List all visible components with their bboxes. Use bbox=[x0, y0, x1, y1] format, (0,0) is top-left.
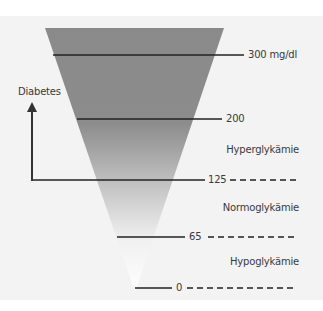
zone-label-normoglycemia: Normoglykämie bbox=[223, 202, 299, 214]
threshold-label-125: 125 bbox=[208, 174, 227, 186]
diabetes-label: Diabetes bbox=[18, 86, 61, 98]
glucose-funnel bbox=[45, 28, 224, 292]
zone-label-hyperglycemia: Hyperglykämie bbox=[226, 144, 299, 156]
zone-label-hypoglycemia: Hypoglykämie bbox=[230, 256, 299, 268]
threshold-label-65: 65 bbox=[189, 231, 201, 243]
threshold-label-200: 200 bbox=[226, 113, 245, 125]
threshold-label-0: 0 bbox=[176, 282, 182, 294]
threshold-label-300: 300 mg/dl bbox=[248, 49, 297, 61]
arrow-up-icon bbox=[27, 102, 37, 112]
